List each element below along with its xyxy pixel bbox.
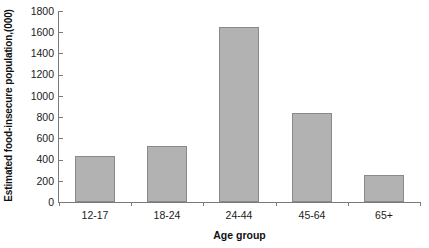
- bar: [147, 146, 187, 202]
- x-axis-category-label: 24-44: [203, 210, 275, 221]
- x-axis-tick-mark: [203, 202, 204, 206]
- bars-layer: [59, 11, 420, 202]
- y-axis-title-text: Estimated food-insecure population,(000): [3, 9, 14, 202]
- bar: [292, 113, 332, 202]
- x-axis-category-label: 65+: [348, 210, 420, 221]
- y-axis-tick-label: 0: [48, 197, 59, 208]
- x-axis-category-label: 45-64: [276, 210, 348, 221]
- y-axis-tick-label: 400: [36, 154, 59, 165]
- y-axis-tick-label: 1400: [31, 48, 59, 59]
- x-axis-tick-mark: [420, 202, 421, 206]
- y-axis-tick-label: 1000: [31, 91, 59, 102]
- x-axis-category-label: 18-24: [131, 210, 203, 221]
- x-axis-tick-mark: [348, 202, 349, 206]
- bar-chart: Estimated food-insecure population,(000)…: [0, 0, 429, 248]
- bar: [75, 156, 115, 202]
- bar: [219, 27, 259, 202]
- plot-area: 020040060080010001200140016001800 12-171…: [59, 11, 420, 202]
- x-axis-tick-mark: [59, 202, 60, 206]
- y-axis-tick-label: 600: [36, 133, 59, 144]
- y-axis-tick-label: 1800: [31, 6, 59, 17]
- y-axis-tick-label: 800: [36, 112, 59, 123]
- y-axis-title: Estimated food-insecure population,(000): [0, 0, 16, 210]
- x-axis-line: [58, 202, 420, 203]
- y-axis-tick-label: 1600: [31, 27, 59, 38]
- y-axis-tick-label: 200: [36, 176, 59, 187]
- x-axis-tick-mark: [131, 202, 132, 206]
- x-axis-category-label: 12-17: [59, 210, 131, 221]
- y-axis-tick-label: 1200: [31, 69, 59, 80]
- x-axis-title: Age group: [59, 229, 420, 241]
- x-axis-tick-mark: [276, 202, 277, 206]
- bar: [364, 175, 404, 202]
